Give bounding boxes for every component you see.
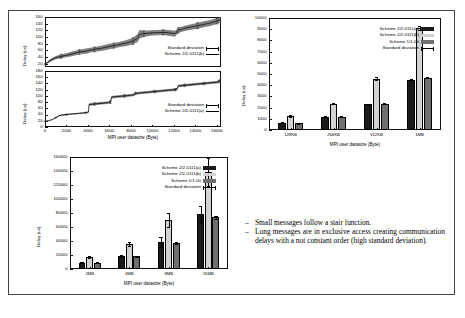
medium-errcap-bot-512KB-2 [383, 104, 386, 105]
legend-entry-1: Scheme 2/2-0111(a) [111, 108, 219, 114]
xtick-medium-256KB: 256KB [318, 133, 350, 137]
chart-delay-large-messages: Delay (us) 02000040000600008000010000012… [26, 152, 238, 292]
bullet-text-1: Long messages are in exclusive access cr… [255, 227, 445, 245]
medium-errcap-top-128KB-1 [289, 115, 292, 116]
medium-errcap-top-512KB-1 [375, 77, 378, 78]
ytick-large-40000: 40000 [43, 239, 68, 243]
ytick-large-mark-20000 [70, 255, 73, 256]
xtick-large-mark-16MB [208, 267, 209, 270]
medium-errcap-bot-1MB-2 [426, 78, 429, 79]
ytick-medium-mark-0 [269, 130, 272, 131]
ytick-large-60000: 60000 [43, 225, 68, 229]
ytick-large-140000: 140000 [43, 169, 68, 173]
ytick-medium-mark-1000 [269, 119, 272, 120]
xtick-medium-mark-1MB [420, 128, 421, 131]
ytick-medium-mark-9000 [269, 29, 272, 30]
large-bar-4MB-1 [126, 244, 133, 269]
y-axis-label-large: Delay (us) [36, 226, 41, 247]
legend-swatch-2 [203, 179, 216, 183]
bullet-item-0: –Small messages follow a stair function. [245, 218, 445, 227]
legend-errorbar-stdev [421, 48, 434, 49]
medium-errcap-bot-256KB-0 [324, 117, 327, 118]
legend-swatch-0 [421, 27, 434, 31]
large-errbar-8MB-1 [169, 213, 170, 226]
ytick-medium-7000: 7000 [249, 50, 267, 54]
ytick-medium-mark-3000 [269, 96, 272, 97]
ytick-large-mark-100000 [70, 199, 73, 200]
legend-swatch-2 [421, 40, 434, 44]
large-errcap-bot-2MB-2 [96, 263, 99, 264]
medium-errcap-bot-256KB-2 [340, 117, 343, 118]
chart-delay-small-messages: Delay (us) 20406080100120140160 Standard… [14, 14, 226, 144]
xtick-large-2MB: 2MB [74, 272, 106, 276]
medium-errcap-bot-128KB-0 [281, 123, 284, 124]
bullet-dash-0: – [245, 218, 251, 227]
medium-errcap-bot-1MB-0 [410, 80, 413, 81]
ytick-medium-9000: 9000 [249, 27, 267, 31]
bullet-text-0: Small messages follow a stair function. [255, 218, 445, 227]
ytick-medium-mark-6000 [269, 63, 272, 64]
large-errcap-top-16MB-0 [199, 206, 202, 207]
xtick-large-mark-8MB [169, 267, 170, 270]
large-errcap-bot-2MB-0 [80, 263, 83, 264]
large-errcap-top-4MB-1 [128, 242, 131, 243]
ytick-large-mark-160000 [70, 157, 73, 158]
large-bar-16MB-2 [212, 217, 219, 269]
large-errcap-bot-16MB-2 [214, 219, 217, 220]
medium-bar-1MB-2 [424, 78, 432, 130]
ytick-medium-6000: 6000 [249, 61, 267, 65]
medium-errcap-bot-512KB-0 [367, 105, 370, 106]
medium-errcap-bot-128KB-1 [289, 117, 292, 118]
xtick-medium-128KB: 128KB [275, 133, 307, 137]
ytick-large-mark-40000 [70, 241, 73, 242]
slide-canvas: Delay (us) 20406080100120140160 Standard… [0, 0, 465, 318]
large-errcap-bot-4MB-1 [128, 246, 131, 247]
large-errcap-bot-4MB-2 [135, 257, 138, 258]
medium-bar-256KB-0 [321, 117, 329, 130]
legend-scheme-a: Standard deviationScheme 2/2-0111(a) [111, 102, 219, 115]
medium-errcap-bot-256KB-1 [332, 104, 335, 105]
medium-bar-512KB-2 [381, 104, 389, 130]
xtick-medium-mark-512KB [377, 128, 378, 131]
ytick-large-mark-60000 [70, 227, 73, 228]
medium-bar-512KB-1 [373, 79, 381, 130]
ytick-large-160000: 160000 [43, 155, 68, 159]
large-errcap-top-2MB-1 [88, 256, 91, 257]
xtick-medium-mark-128KB [291, 128, 292, 131]
large-errcap-top-8MB-2 [175, 242, 178, 243]
ytick-medium-mark-8000 [269, 40, 272, 41]
ytick-medium-mark-2000 [269, 108, 272, 109]
bullet-dash-1: – [245, 227, 251, 245]
legend-label-stdev: Standard deviation [164, 184, 201, 190]
medium-bar-256KB-2 [338, 117, 346, 130]
legend-line-1 [206, 111, 219, 112]
stdev-band [45, 77, 221, 122]
large-errcap-top-16MB-1 [207, 158, 210, 159]
ytick-medium-0: 0 [249, 128, 267, 132]
x-axis-label-a: MPI user datasize (Byte) [45, 135, 221, 140]
xtick-medium-1MB: 1MB [404, 133, 436, 137]
large-errcap-bot-8MB-0 [159, 247, 162, 248]
legend-swatch-1 [203, 173, 216, 177]
xtick-large-16MB: 16MB [192, 272, 224, 276]
legend-errorbar-0 [206, 105, 219, 106]
legend-label-stdev: Standard deviation [382, 45, 419, 51]
legend-entry-stdev: Standard deviation [310, 45, 434, 51]
ytick-large-120000: 120000 [43, 183, 68, 187]
ytick-medium-5000: 5000 [249, 72, 267, 76]
ytick-large-mark-120000 [70, 185, 73, 186]
medium-errcap-bot-512KB-1 [375, 80, 378, 81]
ytick-medium-mark-4000 [269, 85, 272, 86]
large-errbar-8MB-0 [161, 237, 162, 247]
large-errcap-bot-8MB-1 [167, 227, 170, 228]
ytick-large-0: 0 [43, 267, 68, 271]
error-whisker [54, 117, 57, 118]
large-errcap-bot-8MB-2 [175, 244, 178, 245]
large-bar-4MB-2 [133, 256, 140, 269]
series-line-scheme-a [14, 14, 226, 144]
medium-errcap-bot-128KB-2 [297, 124, 300, 125]
chart-delay-medium-messages: Delay (us) 01000200030004000500060007000… [232, 14, 450, 154]
legend-swatch-1 [421, 34, 434, 38]
ytick-large-mark-80000 [70, 213, 73, 214]
ytick-large-20000: 20000 [43, 253, 68, 257]
